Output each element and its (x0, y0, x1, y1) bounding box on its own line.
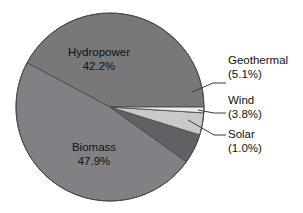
slice-label-wind: Wind (3.8%) (228, 94, 262, 121)
slice-label-hydropower-name: Hydropower (47, 46, 151, 60)
slice-label-solar-value: (1.0%) (228, 142, 262, 156)
slice-label-biomass-name: Biomass (42, 141, 146, 155)
slice-label-geothermal-name: Geothermal (228, 54, 288, 68)
slice-label-biomass-value: 47.9% (42, 155, 146, 169)
slice-label-solar-name: Solar (228, 128, 262, 142)
slice-label-geothermal: Geothermal (5.1%) (228, 54, 288, 81)
slice-label-wind-name: Wind (228, 94, 262, 108)
slice-label-hydropower-value: 42.2% (47, 60, 151, 74)
slice-label-solar: Solar (1.0%) (228, 128, 262, 155)
pie-chart: Hydropower 42.2% Biomass 47.9% Geotherma… (0, 0, 303, 213)
pie-slices (16, 13, 204, 201)
slice-label-wind-value: (3.8%) (228, 108, 262, 122)
slice-label-hydropower: Hydropower 42.2% (47, 46, 151, 73)
slice-label-geothermal-value: (5.1%) (228, 68, 288, 82)
slice-label-biomass: Biomass 47.9% (42, 141, 146, 168)
